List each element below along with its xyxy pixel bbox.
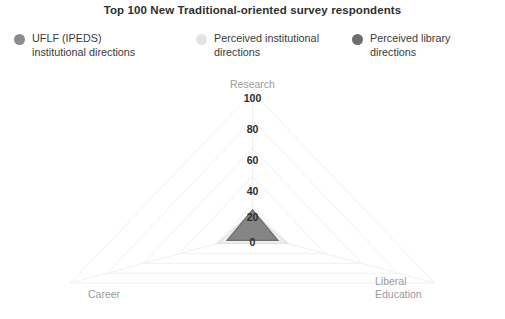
radial-tick-label-80: 80 [223, 123, 283, 135]
page-title: Top 100 New Traditional-oriented survey … [0, 3, 505, 17]
legend-item-perceived-institutional-directions[interactable]: Perceived institutional directions [196, 32, 344, 59]
axis-label-liberal-education: Liberal Education [375, 275, 422, 301]
axis-label-career: Career [88, 288, 120, 301]
radar-plot-area: Research Career Liberal Education 100 80… [0, 70, 505, 319]
radial-tick-label-100: 100 [223, 92, 283, 104]
radial-tick-label-0: 0 [223, 236, 283, 248]
legend-item-uflf-ipeds-institutional-directions[interactable]: UFLF (IPEDS) institutional directions [14, 32, 192, 59]
legend-swatch-icon [14, 34, 25, 45]
legend-swatch-icon [352, 34, 363, 45]
legend-item-label: Perceived library directions [370, 32, 450, 59]
chart-legend: UFLF (IPEDS) institutional directions Pe… [0, 30, 505, 70]
axis-label-research: Research [0, 78, 505, 91]
legend-item-perceived-library-directions[interactable]: Perceived library directions [352, 32, 502, 59]
legend-item-label: UFLF (IPEDS) institutional directions [32, 32, 135, 59]
radial-tick-label-60: 60 [223, 154, 283, 166]
radial-tick-label-20: 20 [223, 211, 283, 223]
legend-swatch-icon [196, 34, 207, 45]
radar-chart-figure: Top 100 New Traditional-oriented survey … [0, 0, 505, 319]
radial-tick-label-40: 40 [223, 185, 283, 197]
legend-item-label: Perceived institutional directions [214, 32, 319, 59]
